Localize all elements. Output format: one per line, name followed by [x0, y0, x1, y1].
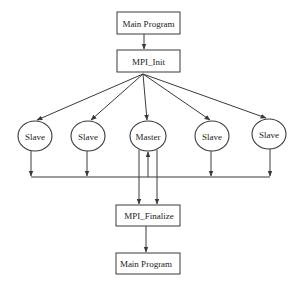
main-program-bottom-box: Main Program	[116, 253, 180, 274]
process-node-slave-2: Slave	[71, 121, 105, 151]
edge-init-to-slave-1	[37, 74, 143, 120]
mpi-flow-diagram: Main Program MPI_Init Slave Slave Master…	[0, 0, 300, 291]
slave-3-label: Slave	[202, 132, 222, 142]
edge-init-to-slave-3	[143, 74, 210, 120]
edge-init-to-slave-2	[91, 74, 143, 120]
mpi-init-label: MPI_Init	[132, 57, 166, 67]
main-program-top-box: Main Program	[117, 12, 180, 34]
process-node-slave-3: Slave	[195, 121, 229, 151]
slave-1-label: Slave	[25, 132, 45, 142]
mpi-finalize-box: MPI_Finalize	[116, 205, 180, 226]
edge-init-to-slave-4	[143, 74, 266, 118]
main-program-top-label: Main Program	[122, 19, 174, 29]
slave-4-label: Slave	[259, 130, 279, 140]
mpi-finalize-label: MPI_Finalize	[124, 211, 174, 221]
main-program-bottom-label: Main Program	[120, 259, 172, 269]
master-label: Master	[136, 132, 161, 142]
process-node-slave-1: Slave	[18, 121, 52, 151]
process-node-slave-4: Slave	[252, 119, 286, 149]
process-node-master: Master	[130, 121, 166, 151]
mpi-init-box: MPI_Init	[117, 50, 180, 72]
edge-init-to-master	[143, 74, 147, 120]
slave-2-label: Slave	[78, 132, 98, 142]
